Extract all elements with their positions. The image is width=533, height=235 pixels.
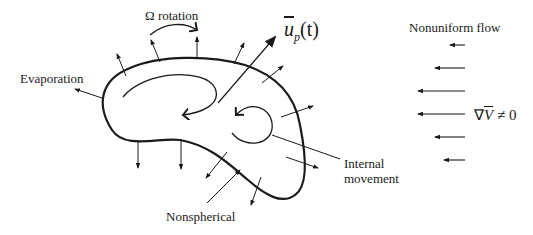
- internal-movement-label-line2: movement: [344, 172, 399, 186]
- nabla-symbol: ∇: [474, 107, 484, 123]
- internal-movement-label-line1: Internal: [344, 157, 384, 171]
- gradient-v: V: [484, 107, 493, 123]
- rotation-label: Ω rotation: [145, 9, 198, 23]
- neq-zero: ≠ 0: [497, 107, 516, 123]
- velocity-arrow: [218, 37, 275, 103]
- flow-arrows: [418, 45, 465, 160]
- velocity-symbol: u: [284, 18, 294, 40]
- gradient-label: ∇V ≠ 0: [474, 106, 516, 124]
- internal-swirl-large: [123, 75, 216, 115]
- nonuniform-flow-label: Nonuniform flow: [409, 21, 500, 35]
- velocity-arg: (t): [300, 18, 319, 40]
- internal-leader-line: [272, 135, 340, 159]
- evaporation-label: Evaporation: [20, 72, 84, 86]
- nonspherical-label: Nonspherical: [166, 210, 235, 224]
- evaporation-arrows: [75, 37, 318, 205]
- internal-swirl-small: [232, 107, 272, 143]
- velocity-label: up(t): [284, 18, 319, 45]
- droplet-diagram: [0, 0, 533, 235]
- rotation-arrow: [150, 25, 197, 35]
